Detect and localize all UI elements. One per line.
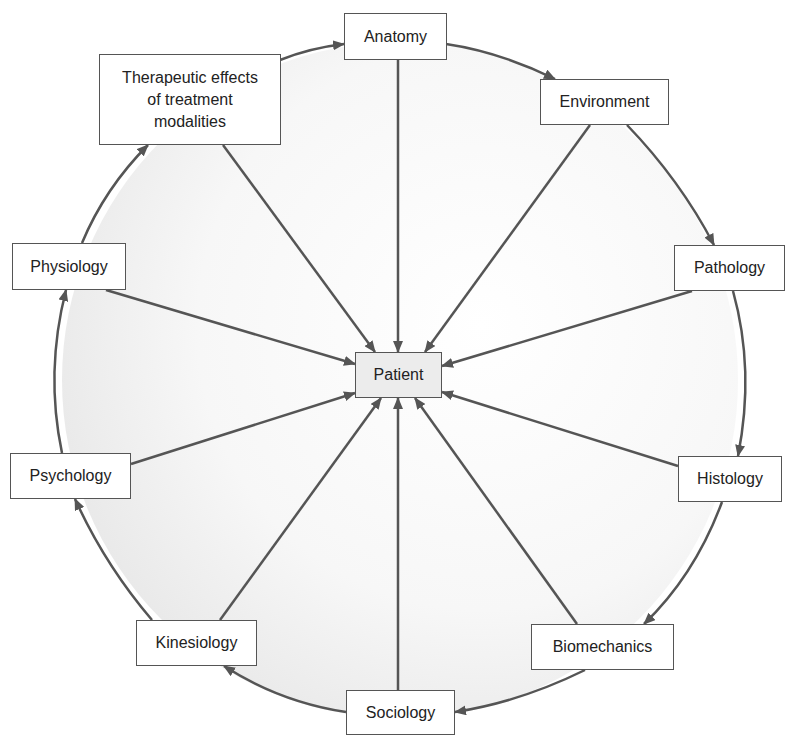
node-pathology: Pathology xyxy=(674,245,785,291)
patient-label: Patient xyxy=(374,364,424,386)
node-kinesiology: Kinesiology xyxy=(136,620,257,666)
node-sociology: Sociology xyxy=(346,690,455,735)
anatomy-label: Anatomy xyxy=(364,26,427,48)
biomechanics-label: Biomechanics xyxy=(553,636,653,658)
sociology-label: Sociology xyxy=(366,702,435,724)
pathology-label: Pathology xyxy=(694,257,765,279)
node-psychology: Psychology xyxy=(10,453,131,499)
patient-node: Patient xyxy=(355,352,442,398)
node-environment: Environment xyxy=(540,79,669,125)
node-biomechanics: Biomechanics xyxy=(531,624,674,670)
node-therapeutic: Therapeutic effects of treatment modalit… xyxy=(99,54,281,145)
physiology-label: Physiology xyxy=(30,256,107,278)
psychology-label: Psychology xyxy=(30,465,112,487)
node-histology: Histology xyxy=(678,456,782,502)
therapeutic-label: Therapeutic effects of treatment modalit… xyxy=(122,67,258,133)
histology-label: Histology xyxy=(697,468,763,490)
kinesiology-label: Kinesiology xyxy=(156,632,238,654)
node-anatomy: Anatomy xyxy=(344,13,447,60)
environment-label: Environment xyxy=(560,91,650,113)
node-physiology: Physiology xyxy=(12,243,126,290)
